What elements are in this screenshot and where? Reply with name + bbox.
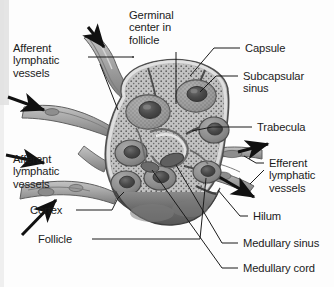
- label-subcapsular-sinus: Subcapsular sinus: [243, 70, 304, 95]
- label-medullary-sinus: Medullary sinus: [243, 237, 319, 249]
- germinal-center: [153, 171, 169, 183]
- follicle: [193, 161, 221, 183]
- germinal-center: [120, 176, 135, 188]
- scan-edge-artifact-2: [0, 0, 4, 287]
- label-trabecula: Trabecula: [257, 121, 305, 133]
- germinal-center: [208, 123, 223, 135]
- follicle: [111, 171, 141, 195]
- label-hilum: Hilum: [253, 210, 281, 222]
- leader-efferent-b: [250, 170, 264, 184]
- lymph-node-figure: Germinal center in follicle Afferent lym…: [0, 0, 334, 287]
- label-efferent-lymphatic-vessels: Efferent lymphatic vessels: [269, 157, 315, 194]
- germinal-center: [139, 102, 161, 119]
- germinal-center: [201, 166, 215, 177]
- label-follicle: Follicle: [38, 233, 72, 245]
- follicle: [199, 117, 229, 143]
- label-cortex: Cortex: [30, 204, 62, 216]
- germinal-center: [187, 87, 207, 102]
- afferent-vessel-branch-graphic: [78, 146, 108, 172]
- label-medullary-cord: Medullary cord: [243, 262, 315, 274]
- label-afferent-lymphatic-vessels-upper: Afferent lymphatic vessels: [13, 42, 59, 79]
- afferent-lymphatic-vessels-lower-graphic: [22, 105, 112, 137]
- label-capsule: Capsule: [245, 42, 285, 54]
- lymph-node-body: [105, 60, 229, 226]
- follicle: [126, 95, 170, 129]
- germinal-center: [124, 146, 140, 158]
- label-afferent-lymphatic-vessels-lower: Afferent lymphatic vessels: [13, 153, 59, 190]
- follicle: [176, 80, 216, 112]
- leader-hilum: [218, 190, 248, 216]
- label-germinal-center-in-follicle: Germinal center in follicle: [129, 9, 174, 46]
